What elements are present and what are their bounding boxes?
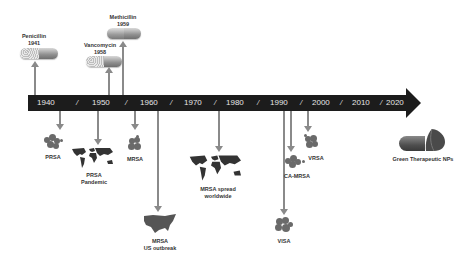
tick-1960: 1960: [140, 96, 158, 110]
tick-separator: /: [125, 96, 127, 110]
arrow-down-icon: [287, 146, 295, 152]
drug-name: Penicillin: [18, 33, 50, 40]
capsule-icon: [107, 28, 141, 39]
label-line: MRSA spread: [196, 186, 240, 193]
bacteria-cluster-icon: [304, 134, 322, 152]
tick-1940: 1940: [37, 96, 55, 110]
world-map-icon: [70, 146, 116, 170]
connector-line: [290, 111, 292, 146]
tick-separator: /: [340, 96, 342, 110]
nanoparticle-capsule-icon: [399, 136, 425, 151]
arrow-down-icon: [215, 146, 223, 152]
us-map-icon: [143, 213, 177, 235]
bacteria-cluster-icon: [274, 216, 294, 234]
drug-name: Vancomycin: [84, 42, 116, 49]
world-map-icon: [183, 153, 249, 183]
tick-1950: 1950: [92, 96, 110, 110]
mrsa-spread-label: MRSA spread worldwide: [196, 186, 240, 200]
label-line: US outbreak: [140, 245, 180, 252]
connector-line: [157, 111, 159, 206]
tick-separator: /: [170, 96, 172, 110]
vrsa-label: VRSA: [306, 155, 326, 162]
tick-separator: /: [300, 96, 302, 110]
ca-mrsa-label: CA-MRSA: [282, 173, 312, 180]
tick-separator: /: [257, 96, 259, 110]
arrow-down-icon: [131, 124, 139, 130]
arrow-down-icon: [94, 139, 102, 145]
arrow-down-icon: [280, 209, 288, 215]
connector-line: [307, 111, 309, 126]
tick-2020: 2020: [386, 96, 404, 110]
tick-1980: 1980: [226, 96, 244, 110]
tick-separator: /: [76, 96, 78, 110]
label-line: MRSA: [140, 238, 180, 245]
tick-2010: 2010: [352, 96, 370, 110]
capsule-icon: [86, 56, 122, 67]
tick-1990: 1990: [270, 96, 288, 110]
nanoparticle-half-capsule-icon: [424, 128, 446, 152]
mrsa-label: MRSA: [124, 156, 146, 163]
label-line: Pandemic: [78, 179, 110, 186]
connector-line: [134, 111, 136, 124]
arrow-down-icon: [154, 206, 162, 212]
visa-label: VISA: [272, 238, 296, 245]
capsule-icon: [20, 48, 58, 59]
connector-line: [122, 46, 124, 95]
drug-year: 1958: [84, 49, 116, 56]
label-line: worldwide: [196, 193, 240, 200]
penicillin-label: Penicillin 1941: [18, 33, 50, 47]
drug-year: 1959: [105, 21, 141, 28]
mrsa-us-outbreak-label: MRSA US outbreak: [140, 238, 180, 252]
drug-year: 1941: [18, 40, 50, 47]
connector-line: [34, 66, 36, 95]
arrow-down-icon: [56, 124, 64, 130]
timeline-arrowhead-icon: [406, 88, 421, 118]
vancomycin-label: Vancomycin 1958: [84, 42, 116, 56]
tick-separator: /: [380, 96, 382, 110]
methicillin-label: Methicillin 1959: [105, 14, 141, 28]
connector-line: [97, 111, 99, 139]
tick-2000: 2000: [312, 96, 330, 110]
timeline-bar: [28, 95, 408, 111]
tick-1970: 1970: [184, 96, 202, 110]
green-therapeutic-nps-label: Green Therapeutic NPs: [386, 156, 460, 163]
bacteria-cluster-icon: [284, 154, 306, 170]
connector-line: [218, 111, 220, 146]
bacteria-cluster-icon: [127, 135, 143, 153]
drug-name: Methicillin: [105, 14, 141, 21]
arrow-down-icon: [304, 126, 312, 132]
tick-separator: /: [214, 96, 216, 110]
connector-line: [59, 111, 61, 124]
prsa-pandemic-label: PRSA Pandemic: [78, 172, 110, 186]
label-line: PRSA: [78, 172, 110, 179]
prsa-label: PRSA: [40, 154, 66, 161]
bacteria-cluster-icon: [42, 133, 64, 151]
connector-line: [108, 72, 110, 95]
